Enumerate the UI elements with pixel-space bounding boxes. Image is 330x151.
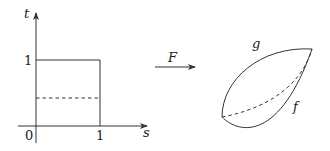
curve-f <box>222 49 312 128</box>
t-axis-label: t <box>24 6 30 21</box>
mapping-label: F <box>167 50 178 65</box>
curve-g-label: g <box>252 36 260 51</box>
t-tick-one: 1 <box>24 53 32 68</box>
homotopy-diagram: t 1 0 1 s F g f <box>0 0 330 151</box>
s-tick-one: 1 <box>96 128 104 143</box>
origin-label: 0 <box>25 128 33 143</box>
unit-square-boundary <box>36 60 100 126</box>
s-axis-label: s <box>143 125 150 140</box>
curve-g <box>222 49 312 117</box>
dashed-intermediate-curve <box>222 49 312 117</box>
image-surface: g f <box>222 36 312 128</box>
mapping-arrow: F <box>155 50 195 67</box>
domain-plot: t 1 0 1 s <box>18 6 150 143</box>
curve-f-label: f <box>292 99 300 114</box>
